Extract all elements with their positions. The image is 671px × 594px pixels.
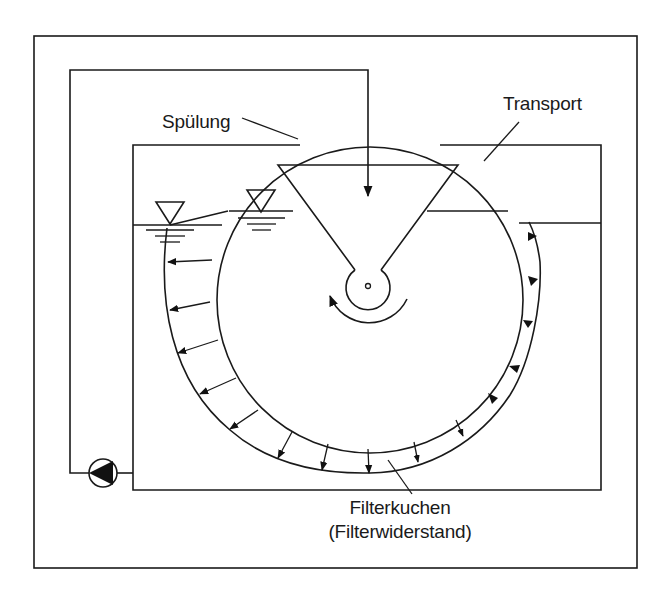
filter-cake-boundary [164, 222, 540, 473]
tank [133, 145, 601, 490]
rotary-drum-filter-diagram [0, 0, 671, 594]
transport-label: Transport [503, 93, 582, 115]
filter-cake-label: Filterkuchen [340, 497, 460, 519]
pump-icon [89, 459, 117, 487]
outer-frame [34, 36, 637, 568]
filter-cake-small-arrows [488, 232, 538, 404]
hub [346, 270, 390, 310]
filter-resistance-label: (Filterwiderstand) [310, 521, 490, 543]
water-level-symbol-left [146, 202, 194, 242]
water-level-symbol-right [238, 190, 285, 230]
rinse-label: Spülung [162, 111, 230, 133]
filter-cake-leader [388, 460, 412, 494]
transport-leader [484, 122, 519, 161]
drum [217, 147, 523, 453]
water-level-connector [170, 211, 228, 225]
hub-axle-dot [366, 284, 371, 289]
rinse-leader [242, 118, 298, 139]
filter-cake-flow-arrows [168, 260, 463, 473]
